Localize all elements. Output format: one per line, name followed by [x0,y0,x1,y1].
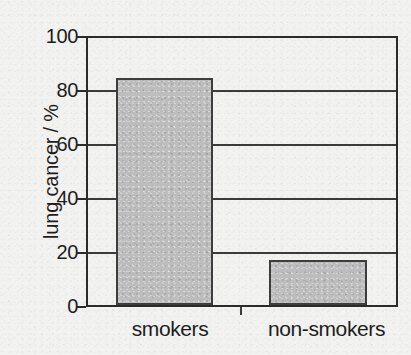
x-axis-tick-label-smokers: smokers [105,318,235,339]
y-axis-tick-mark-60 [77,144,86,146]
x-axis-category-divider-tick [240,307,242,315]
y-axis-tick-mark-80 [77,90,86,92]
bar-non-smokers [269,260,367,305]
plot-area [86,36,398,307]
y-axis-tick-label-60: 60 [28,134,78,154]
y-axis-tick-label-40: 40 [28,188,78,208]
y-axis-tick-mark-40 [77,198,86,200]
y-axis-tick-label-group: 100 80 60 40 20 0 [22,0,78,355]
y-axis-tick-label-0: 0 [28,296,78,316]
y-axis-tick-mark-20 [77,252,86,254]
y-axis-tick-mark-0 [77,306,86,308]
x-axis-tick-label-non-smokers: non-smokers [244,318,409,339]
y-axis-tick-label-100: 100 [28,26,78,46]
y-axis-tick-label-20: 20 [28,242,78,262]
bar-chart-figure: lung cancer / % 100 80 60 40 20 0 smoker… [0,0,411,355]
y-axis-tick-label-80: 80 [28,80,78,100]
bar-smokers [116,78,213,305]
y-axis-tick-mark-100 [77,36,86,38]
